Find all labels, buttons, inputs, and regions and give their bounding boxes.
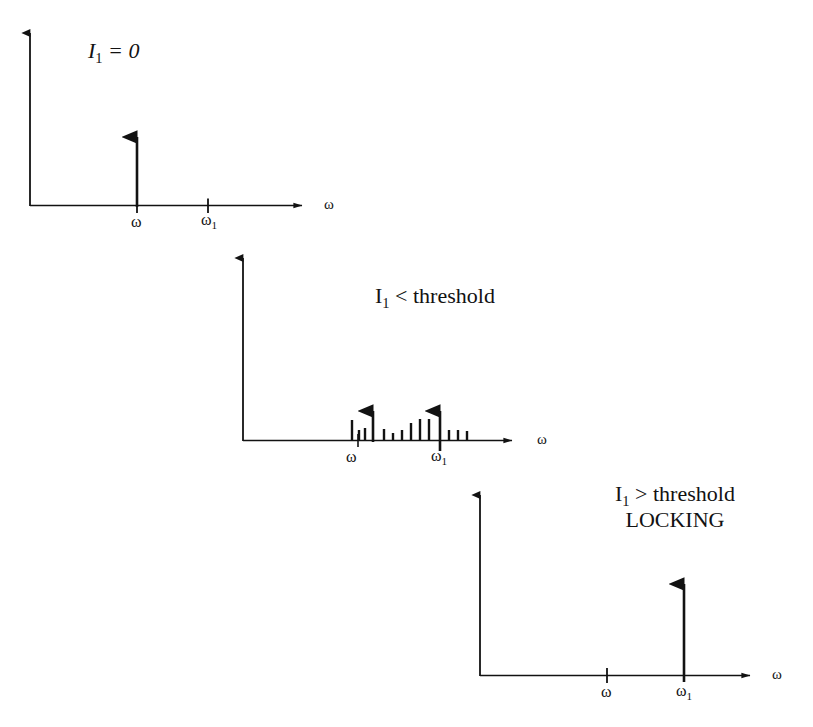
panel1-condition-rest: = 0 xyxy=(103,38,140,63)
spectra-figure-svg xyxy=(0,0,813,727)
tick-base: ω xyxy=(601,683,612,700)
tick-base: ω xyxy=(131,213,142,230)
tick-base: ω xyxy=(201,211,212,228)
panel2-tick-label-omega1: ω1 xyxy=(431,447,447,465)
panel-no-injection-graphics xyxy=(30,33,302,213)
panel1-tick-label-omega: ω xyxy=(131,213,142,231)
panel1-tick-label-omega1: ω1 xyxy=(201,211,217,229)
panel3-x-axis-label: ω xyxy=(772,666,782,683)
panel3-condition-line1: I1 > threshold xyxy=(615,481,735,507)
panel3-condition-label: I1 > threshold LOCKING xyxy=(615,481,735,533)
panel2-tick-label-omega: ω xyxy=(346,448,357,466)
panel1-condition-label: I1 = 0 xyxy=(88,38,139,64)
panel2-sideband-comb xyxy=(352,419,467,441)
tick-subscript: 1 xyxy=(687,690,693,702)
panel2-x-axis-label: ω xyxy=(537,431,547,448)
panel3-locking-label: LOCKING xyxy=(615,507,735,533)
panel2-condition-rest: < threshold xyxy=(390,283,495,308)
tick-base: ω xyxy=(676,682,687,699)
tick-base: ω xyxy=(431,447,442,464)
tick-subscript: 1 xyxy=(212,219,218,231)
panel3-tick-label-omega1: ω1 xyxy=(676,682,692,700)
panel2-condition-label: I1 < threshold xyxy=(375,283,495,309)
panel3-tick-label-omega: ω xyxy=(601,683,612,701)
panel2-condition-subscript: 1 xyxy=(382,295,389,311)
tick-subscript: 1 xyxy=(442,455,448,467)
figure-root: I1 = 0 ω ω ω1 I1 < threshold ω ω ω1 I1 >… xyxy=(0,0,813,727)
panel1-x-axis-label: ω xyxy=(324,196,334,213)
panel3-condition-rest: > threshold xyxy=(630,481,735,506)
tick-base: ω xyxy=(346,448,357,465)
panel1-condition-subscript: 1 xyxy=(95,50,102,66)
